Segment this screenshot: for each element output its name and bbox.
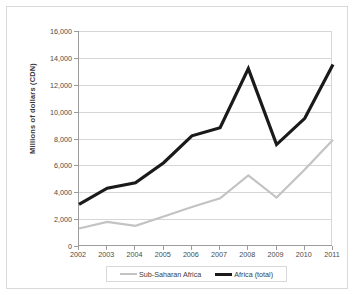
y-tick-label: 8,000 [26, 135, 72, 144]
x-tick-mark [106, 246, 107, 250]
series-line-0 [79, 140, 333, 229]
x-tick-mark [276, 246, 277, 250]
y-tick-label: 12,000 [26, 81, 72, 90]
x-tick-mark [219, 246, 220, 250]
y-tick-label: 10,000 [26, 108, 72, 117]
x-tick-label: 2011 [315, 250, 349, 259]
legend-swatch-0 [120, 273, 137, 275]
chart-figure: Millions of dollars (CDN) 02,0004,0006,0… [0, 0, 354, 295]
chart-legend: Sub-Saharan AfricaAfrica (total) [106, 266, 287, 282]
series-line-1 [79, 65, 333, 205]
x-tick-mark [247, 246, 248, 250]
plot-area [78, 31, 332, 246]
x-tick-mark [78, 246, 79, 250]
legend-label-0: Sub-Saharan Africa [139, 270, 201, 279]
y-tick-label: 14,000 [26, 54, 72, 63]
y-tick-label: 4,000 [26, 188, 72, 197]
legend-swatch-1 [215, 273, 232, 276]
y-tick-label: 16,000 [26, 27, 72, 36]
x-tick-mark [191, 246, 192, 250]
x-tick-mark [332, 246, 333, 250]
legend-entry-1[interactable]: Africa (total) [215, 270, 273, 279]
x-tick-mark [134, 246, 135, 250]
series-lines [79, 31, 333, 246]
y-tick-label: 2,000 [26, 215, 72, 224]
x-tick-mark [163, 246, 164, 250]
legend-entry-0[interactable]: Sub-Saharan Africa [120, 270, 201, 279]
legend-label-1: Africa (total) [234, 270, 273, 279]
y-tick-label: 6,000 [26, 161, 72, 170]
x-tick-mark [304, 246, 305, 250]
